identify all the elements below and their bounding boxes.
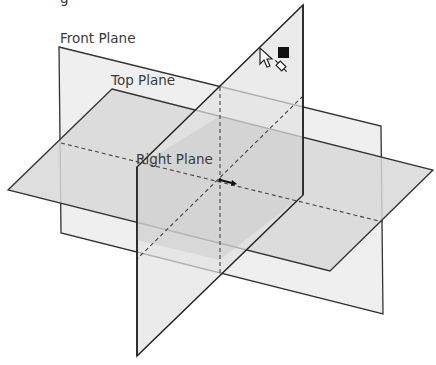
reference-planes-diagram: g Front Plane Top Plane Right Plane bbox=[0, 0, 436, 365]
black-square-icon bbox=[278, 47, 289, 58]
top-plane-label: Top Plane bbox=[110, 72, 175, 88]
front-plane-label: Front Plane bbox=[60, 30, 135, 46]
partial-top-text: g bbox=[60, 0, 69, 6]
right-plane-label: Right Plane bbox=[136, 151, 213, 167]
